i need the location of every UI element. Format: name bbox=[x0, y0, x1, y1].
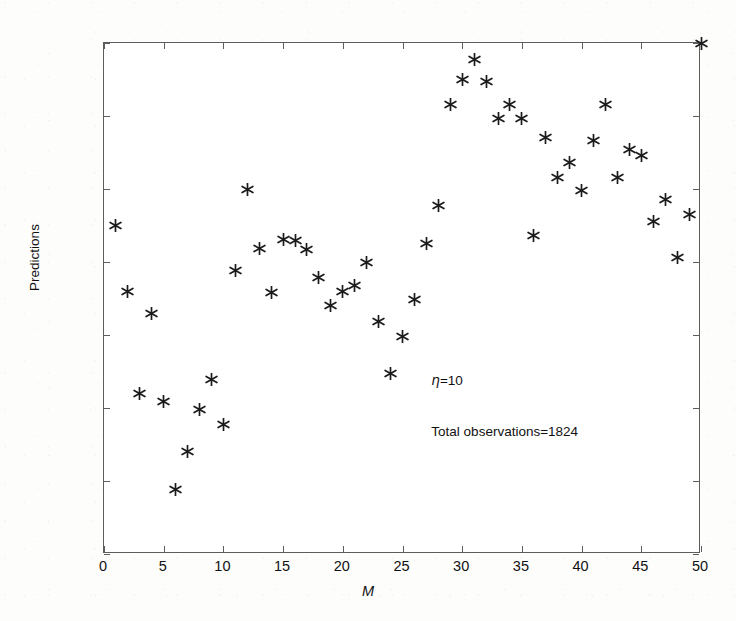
data-point-marker bbox=[384, 367, 397, 380]
x-axis-tick-top bbox=[641, 43, 642, 49]
y-axis-label: Predictions bbox=[27, 198, 42, 318]
data-point-marker bbox=[695, 37, 708, 50]
x-axis-label: M bbox=[0, 583, 736, 599]
y-axis-tick bbox=[104, 408, 110, 409]
x-axis-tick bbox=[343, 546, 344, 552]
data-point-marker bbox=[241, 183, 254, 196]
eta-value: =10 bbox=[440, 373, 463, 388]
y-axis-tick bbox=[104, 481, 110, 482]
data-point-marker bbox=[253, 242, 266, 255]
data-point-marker bbox=[169, 483, 182, 496]
data-point-marker bbox=[659, 193, 672, 206]
x-axis-tick-top bbox=[164, 43, 165, 49]
x-axis-tick-label: 20 bbox=[334, 558, 350, 574]
x-axis-tick-label: 30 bbox=[453, 558, 469, 574]
data-point-marker bbox=[671, 251, 684, 264]
y-axis-tick bbox=[104, 43, 110, 44]
data-point-marker bbox=[396, 330, 409, 343]
data-point-marker bbox=[193, 403, 206, 416]
data-point-marker bbox=[312, 271, 325, 284]
data-point-marker bbox=[492, 112, 505, 125]
x-axis-tick bbox=[403, 546, 404, 552]
y-axis-tick-right bbox=[693, 116, 699, 117]
data-point-marker bbox=[611, 171, 624, 184]
data-point-marker bbox=[480, 75, 493, 88]
data-point-marker bbox=[432, 199, 445, 212]
x-axis-tick-label: 5 bbox=[159, 558, 167, 574]
data-point-marker bbox=[575, 184, 588, 197]
annotation-eta: η=10 bbox=[431, 372, 462, 388]
x-axis-tick bbox=[283, 546, 284, 552]
y-axis-tick-right bbox=[693, 335, 699, 336]
data-point-marker bbox=[515, 112, 528, 125]
y-axis-tick bbox=[104, 116, 110, 117]
data-point-marker bbox=[217, 418, 230, 431]
y-axis-tick-right bbox=[693, 554, 699, 555]
x-axis-tick-label: 10 bbox=[214, 558, 230, 574]
x-axis-tick bbox=[462, 546, 463, 552]
y-axis-tick-right bbox=[693, 262, 699, 263]
y-axis-tick bbox=[104, 262, 110, 263]
data-point-marker bbox=[563, 156, 576, 169]
x-axis-tick bbox=[164, 546, 165, 552]
data-point-marker bbox=[408, 293, 421, 306]
data-point-marker bbox=[456, 73, 469, 86]
x-axis-tick-top bbox=[343, 43, 344, 49]
x-axis-tick-label: 35 bbox=[513, 558, 529, 574]
x-axis-tick-label: 50 bbox=[692, 558, 708, 574]
data-point-marker bbox=[300, 243, 313, 256]
data-point-marker bbox=[181, 445, 194, 458]
data-point-marker bbox=[348, 279, 361, 292]
data-point-marker bbox=[683, 208, 696, 221]
x-axis-tick-label: 45 bbox=[632, 558, 648, 574]
data-point-marker bbox=[599, 98, 612, 111]
data-point-marker bbox=[468, 53, 481, 66]
y-axis-tick bbox=[104, 554, 110, 555]
data-point-marker bbox=[157, 395, 170, 408]
x-axis-tick-top bbox=[462, 43, 463, 49]
x-axis-tick-label: 25 bbox=[393, 558, 409, 574]
data-point-marker bbox=[551, 171, 564, 184]
x-axis-tick bbox=[104, 546, 105, 552]
data-point-marker bbox=[145, 307, 158, 320]
x-axis-tick bbox=[582, 546, 583, 552]
data-point-marker bbox=[360, 256, 373, 269]
data-point-marker bbox=[647, 215, 660, 228]
x-axis-tick-top bbox=[223, 43, 224, 49]
y-axis-tick-right bbox=[693, 408, 699, 409]
data-point-marker bbox=[444, 98, 457, 111]
x-axis-tick bbox=[641, 546, 642, 552]
x-axis-tick bbox=[522, 546, 523, 552]
data-point-marker bbox=[324, 299, 337, 312]
y-axis-tick bbox=[104, 335, 110, 336]
data-point-marker bbox=[133, 387, 146, 400]
scatter-plot-figure: Predictions M 05101520253035404550940950… bbox=[0, 0, 736, 621]
data-point-marker bbox=[635, 149, 648, 162]
data-point-marker bbox=[539, 131, 552, 144]
data-point-marker bbox=[121, 285, 134, 298]
x-axis-tick-label: 15 bbox=[274, 558, 290, 574]
x-axis-tick-top bbox=[522, 43, 523, 49]
data-point-marker bbox=[503, 98, 516, 111]
data-point-marker bbox=[372, 315, 385, 328]
annotation-total-observations: Total observations=1824 bbox=[431, 424, 578, 439]
x-axis-tick bbox=[701, 546, 702, 552]
y-axis-tick bbox=[104, 189, 110, 190]
data-point-marker bbox=[229, 264, 242, 277]
data-point-marker bbox=[420, 237, 433, 250]
eta-symbol: η bbox=[431, 372, 440, 388]
x-axis-tick bbox=[223, 546, 224, 552]
x-axis-tick-label: 0 bbox=[99, 558, 107, 574]
x-axis-tick-top bbox=[283, 43, 284, 49]
data-point-marker bbox=[205, 373, 218, 386]
x-axis-tick-label: 40 bbox=[573, 558, 589, 574]
y-axis-tick-right bbox=[693, 481, 699, 482]
data-point-marker bbox=[265, 286, 278, 299]
data-point-marker bbox=[109, 219, 122, 232]
data-point-marker bbox=[527, 229, 540, 242]
y-axis-tick-right bbox=[693, 189, 699, 190]
plot-area bbox=[103, 42, 700, 553]
x-axis-tick-top bbox=[582, 43, 583, 49]
x-axis-tick-top bbox=[403, 43, 404, 49]
data-point-marker bbox=[587, 134, 600, 147]
